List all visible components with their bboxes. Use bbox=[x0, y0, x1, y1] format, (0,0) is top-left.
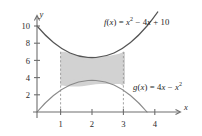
x-axis-label: x bbox=[183, 102, 188, 112]
x-tick-label-3: 3 bbox=[121, 119, 125, 129]
y-tick-label-2: 2 bbox=[26, 90, 30, 100]
function-label-f: f(x) = x2 − 4x + 10 bbox=[104, 17, 170, 27]
y-tick-label-8: 8 bbox=[26, 38, 30, 48]
y-axis-label: y bbox=[39, 9, 44, 19]
x-tick-label-4: 4 bbox=[153, 119, 158, 129]
function-label-g: g(x) = 4x − x2 bbox=[133, 82, 182, 92]
g-equals: = 4 bbox=[147, 82, 161, 92]
f-equals: = bbox=[116, 17, 126, 27]
y-tick-label-6: 6 bbox=[26, 56, 31, 66]
y-tick-label-4: 4 bbox=[26, 73, 31, 83]
x-tick-label-1: 1 bbox=[58, 119, 62, 129]
curve-g bbox=[37, 80, 147, 112]
f-term2: − 4 bbox=[133, 17, 147, 27]
area-between-curves-figure: 1 2 3 4 2 4 6 8 10 x y f(x) = x2 − 4x + … bbox=[0, 0, 202, 136]
y-tick-label-10: 10 bbox=[21, 21, 30, 31]
f-term3: + 10 bbox=[151, 17, 169, 27]
g-term2: − bbox=[165, 82, 175, 92]
x-tick-label-2: 2 bbox=[90, 119, 94, 129]
g-term3-exponent: 2 bbox=[179, 81, 182, 87]
graph-canvas: 1 2 3 4 2 4 6 8 10 x y bbox=[0, 0, 202, 136]
